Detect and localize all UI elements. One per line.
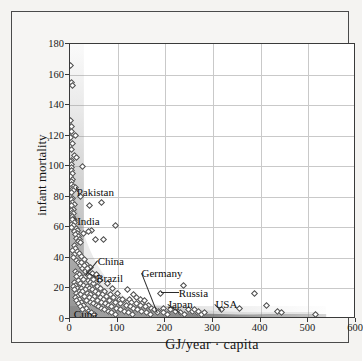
y-axis-tick-label: 100 xyxy=(48,160,64,171)
y-axis-tick-mark xyxy=(65,43,69,44)
y-axis-tick-mark xyxy=(65,226,69,227)
data-point-marker xyxy=(77,239,84,246)
y-axis-tick-mark xyxy=(65,135,69,136)
y-axis-tick-mark xyxy=(65,257,69,258)
x-axis-tick-mark xyxy=(117,318,118,322)
country-annotation-label: China xyxy=(98,256,124,267)
x-axis-tick-label: 400 xyxy=(252,322,268,333)
country-annotation-label: India xyxy=(77,216,100,227)
x-axis-tick-label: 200 xyxy=(156,322,172,333)
gridline-vertical xyxy=(261,44,262,317)
x-axis-tick-mark xyxy=(164,318,165,322)
y-axis-tick-mark xyxy=(65,74,69,75)
y-axis-tick-label: 20 xyxy=(54,282,65,293)
annotation-leader-line xyxy=(76,187,78,192)
data-point-marker xyxy=(263,302,270,309)
data-point-marker xyxy=(129,311,136,318)
gridline-horizontal xyxy=(70,136,354,137)
x-axis-tick-mark xyxy=(355,318,356,322)
country-annotation-label: Pakistan xyxy=(77,187,114,198)
country-annotation-label: Cuba xyxy=(74,309,97,318)
gridline-vertical xyxy=(308,44,309,317)
data-point-marker xyxy=(251,289,258,296)
gridline-vertical xyxy=(213,44,214,317)
gridline-horizontal xyxy=(70,166,354,167)
data-point-marker xyxy=(69,62,74,69)
y-axis-tick-mark xyxy=(65,104,69,105)
gridline-horizontal xyxy=(70,75,354,76)
y-axis-tick-label: 120 xyxy=(48,129,64,140)
x-axis-tick-label: 600 xyxy=(347,322,363,333)
data-point-marker xyxy=(92,236,99,243)
country-annotation-label: Brazil xyxy=(96,273,123,284)
y-axis-tick-label: 160 xyxy=(48,68,64,79)
y-axis-tick-label: 180 xyxy=(48,38,64,49)
y-axis-tick-label: 140 xyxy=(48,99,64,110)
data-point-marker xyxy=(98,199,105,206)
x-axis-tick-mark xyxy=(212,318,213,322)
x-axis-tick-label: 0 xyxy=(66,322,71,333)
gridline-horizontal xyxy=(70,227,354,228)
x-axis-tick-mark xyxy=(260,318,261,322)
data-point-marker xyxy=(312,311,319,318)
y-axis-tick-label: 40 xyxy=(54,251,65,262)
y-axis-tick-label: 0 xyxy=(59,313,64,324)
x-axis-tick-mark xyxy=(69,318,70,322)
y-axis-tick-label: 60 xyxy=(54,221,65,232)
data-point-marker xyxy=(157,289,164,296)
x-axis-tick-label: 100 xyxy=(109,322,125,333)
data-point-marker xyxy=(114,289,121,296)
y-axis-label: infant mortality xyxy=(34,60,50,290)
y-axis-tick-mark xyxy=(65,196,69,197)
figure-border: PakistanIndiaChinaBrazilGermanyRussiaJap… xyxy=(11,11,349,343)
y-axis-tick-mark xyxy=(65,165,69,166)
plot-shell: PakistanIndiaChinaBrazilGermanyRussiaJap… xyxy=(69,43,355,318)
y-axis-tick-label: 80 xyxy=(54,190,65,201)
x-axis-label: GJ/year · capita xyxy=(69,337,355,353)
gridline-horizontal xyxy=(70,105,354,106)
data-point-marker xyxy=(100,236,107,243)
data-point-marker xyxy=(278,309,285,316)
x-axis-tick-label: 500 xyxy=(299,322,315,333)
x-axis-tick-label: 300 xyxy=(204,322,220,333)
data-point-marker xyxy=(86,202,93,209)
y-axis-tick-mark xyxy=(65,287,69,288)
x-axis-tick-mark xyxy=(307,318,308,322)
annotation-leader-line xyxy=(161,292,179,293)
data-point-marker xyxy=(79,163,86,170)
country-annotation-label: Germany xyxy=(142,268,183,279)
data-point-marker xyxy=(69,82,76,89)
plot-area: PakistanIndiaChinaBrazilGermanyRussiaJap… xyxy=(69,43,355,318)
